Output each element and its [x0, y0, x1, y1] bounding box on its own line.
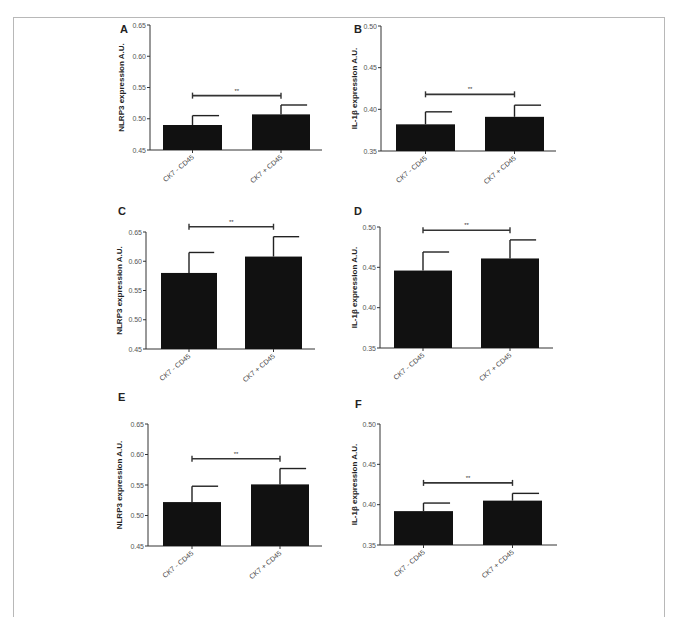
- y-tick-label: 0.35: [363, 148, 377, 155]
- panel-d: DIL-1β expression A.U.0.350.400.450.50CK…: [350, 205, 553, 382]
- bar-ck7-plus-cd45: [481, 258, 539, 348]
- x-category-label: CK7 + CD45: [478, 351, 513, 382]
- y-axis-label: IL-1β expression A.U.: [350, 48, 359, 130]
- y-tick-label: 0.40: [363, 106, 377, 113]
- panel-letter: E: [118, 391, 125, 403]
- panel-a: ANLRP3 expression A.U.0.450.500.550.600.…: [117, 22, 322, 185]
- significance-label: **: [234, 451, 239, 457]
- panel-f: FIL-1β expression A.U.0.350.400.450.50CK…: [350, 398, 557, 579]
- bar-ck7-plus-cd45: [251, 484, 309, 546]
- y-tick-label: 0.45: [130, 543, 144, 550]
- y-tick-label: 0.35: [362, 345, 376, 352]
- x-category-label: CK7 - CD45: [162, 153, 195, 183]
- x-category-label: CK7 - CD45: [393, 548, 426, 578]
- bar-ck7-minus-cd45: [163, 125, 222, 150]
- x-category-label: CK7 + CD45: [249, 153, 284, 184]
- y-tick-label: 0.60: [128, 258, 142, 265]
- x-category-label: CK7 - CD45: [392, 351, 425, 381]
- y-tick-label: 0.65: [132, 22, 146, 29]
- bar-ck7-minus-cd45: [396, 124, 455, 151]
- y-tick-label: 0.60: [130, 451, 144, 458]
- significance-label: **: [234, 88, 239, 94]
- y-tick-label: 0.55: [132, 84, 146, 91]
- y-tick-label: 0.50: [363, 23, 377, 30]
- y-tick-label: 0.55: [130, 482, 144, 489]
- x-category-label: CK7 + CD45: [482, 154, 517, 185]
- panel-e: ENLRP3 expression A.U.0.450.500.550.600.…: [115, 391, 322, 580]
- y-tick-label: 0.35: [362, 542, 376, 549]
- y-tick-label: 0.50: [132, 115, 146, 122]
- y-axis-label: IL-1β expression A.U.: [350, 444, 359, 526]
- bar-ck7-minus-cd45: [394, 271, 452, 348]
- bar-ck7-minus-cd45: [161, 273, 217, 349]
- y-tick-label: 0.60: [132, 53, 146, 60]
- y-tick-label: 0.50: [362, 421, 376, 428]
- significance-label: **: [468, 86, 473, 92]
- y-axis-label: NLRP3 expression A.U.: [115, 246, 124, 335]
- y-tick-label: 0.45: [362, 461, 376, 468]
- significance-label: **: [464, 222, 469, 228]
- bar-ck7-plus-cd45: [485, 117, 544, 151]
- y-tick-label: 0.65: [130, 421, 144, 428]
- panel-letter: A: [120, 23, 128, 35]
- x-category-label: CK7 - CD45: [395, 154, 428, 184]
- x-category-label: CK7 - CD45: [158, 352, 191, 382]
- y-tick-label: 0.45: [132, 147, 146, 154]
- x-category-label: CK7 - CD45: [161, 549, 194, 579]
- panel-c: CNLRP3 expression A.U.0.450.500.550.600.…: [115, 205, 315, 383]
- bar-ck7-plus-cd45: [483, 501, 542, 545]
- y-tick-label: 0.40: [362, 501, 376, 508]
- y-tick-label: 0.45: [363, 64, 377, 71]
- panel-letter: C: [118, 205, 126, 217]
- bar-ck7-minus-cd45: [394, 511, 453, 545]
- significance-label: **: [466, 475, 471, 481]
- y-tick-label: 0.45: [362, 264, 376, 271]
- panel-letter: B: [354, 23, 362, 35]
- y-axis-label: NLRP3 expression A.U.: [117, 43, 126, 132]
- bar-ck7-minus-cd45: [163, 502, 221, 546]
- y-tick-label: 0.40: [362, 304, 376, 311]
- bar-ck7-plus-cd45: [245, 257, 302, 349]
- significance-label: **: [229, 219, 234, 225]
- panel-letter: F: [355, 398, 362, 410]
- panel-b: BIL-1β expression A.U.0.350.400.450.50CK…: [350, 23, 556, 186]
- y-tick-label: 0.50: [130, 512, 144, 519]
- bar-ck7-plus-cd45: [252, 114, 310, 150]
- y-tick-label: 0.55: [128, 287, 142, 294]
- y-tick-label: 0.50: [128, 316, 142, 323]
- y-axis-label: IL-1β expression A.U.: [350, 247, 359, 329]
- x-category-label: CK7 + CD45: [241, 352, 276, 383]
- x-category-label: CK7 + CD45: [248, 549, 283, 580]
- y-tick-label: 0.45: [128, 346, 142, 353]
- y-tick-label: 0.65: [128, 229, 142, 236]
- panel-letter: D: [354, 205, 362, 217]
- y-tick-label: 0.50: [362, 224, 376, 231]
- y-axis-label: NLRP3 expression A.U.: [115, 441, 124, 530]
- x-category-label: CK7 + CD45: [480, 548, 515, 579]
